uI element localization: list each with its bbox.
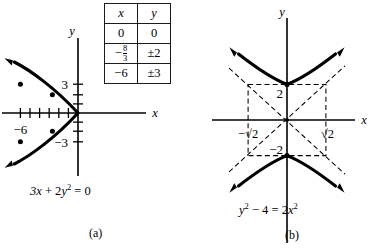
table-cell-y-row2: ±2 bbox=[138, 44, 171, 64]
y-axis-label-b: y bbox=[277, 5, 285, 19]
fraction-numerator: 8 bbox=[123, 44, 127, 53]
arrowhead-upper-left-b bbox=[229, 47, 237, 57]
vertex-dot-lower-b bbox=[284, 153, 289, 158]
y-tick-label-neg3-a: −3 bbox=[54, 135, 68, 150]
fraction-sign: − bbox=[115, 47, 122, 60]
figure-root: x y −6 3 −3 bbox=[0, 0, 383, 249]
table-cell-y-row1: 0 bbox=[138, 24, 171, 44]
y-tick-label-pos3-a: 3 bbox=[62, 77, 69, 92]
y-axis-label-a: y bbox=[67, 24, 75, 38]
caption-a: (a) bbox=[89, 226, 102, 241]
value-table: x y 0 0 − 8 3 ±2 bbox=[104, 3, 171, 84]
table-cell-x-row3: −6 bbox=[105, 64, 138, 84]
table-cell-x-row1: 0 bbox=[105, 24, 138, 44]
x-axis-label-b: x bbox=[360, 113, 367, 127]
fraction-negative-eight-thirds: − 8 3 bbox=[115, 44, 127, 62]
x-axis-label-a: x bbox=[151, 106, 158, 120]
equation-b: y2 − 4 = 2x2 bbox=[239, 203, 298, 218]
table-row: −6 ±3 bbox=[105, 64, 171, 84]
table-header-y: y bbox=[138, 4, 171, 24]
x-tick-label-neg6-a: −6 bbox=[13, 122, 27, 137]
arrowhead-lower-left-b bbox=[229, 183, 237, 193]
fraction-denominator: 3 bbox=[123, 53, 127, 63]
arrowhead-lower-a bbox=[5, 161, 13, 168]
table-header-row: x y bbox=[105, 4, 171, 24]
table-header-x: x bbox=[105, 4, 138, 24]
arrowhead-upper-right-b bbox=[337, 47, 345, 57]
caption-b: (b) bbox=[285, 228, 299, 243]
y-tick-label-neg2-b: −2 bbox=[269, 142, 283, 157]
arrowhead-lower-right-b bbox=[337, 183, 345, 193]
table-row: 0 0 bbox=[105, 24, 171, 44]
x-tick-label-neg-sqrt2-b: −√2 bbox=[238, 127, 258, 141]
equation-a: 3x + 2y2 = 0 bbox=[30, 184, 91, 199]
origin-dot-b bbox=[285, 118, 289, 122]
table-cell-y-row3: ±3 bbox=[138, 64, 171, 84]
arrowhead-upper-a bbox=[5, 58, 13, 65]
x-tick-label-pos-sqrt2-b: √2 bbox=[321, 127, 334, 141]
y-tick-label-pos2-b: 2 bbox=[277, 86, 284, 101]
table-row: − 8 3 ±2 bbox=[105, 44, 171, 64]
vertex-dot-upper-b bbox=[284, 82, 289, 87]
table-cell-x-row2: − 8 3 bbox=[105, 44, 138, 64]
